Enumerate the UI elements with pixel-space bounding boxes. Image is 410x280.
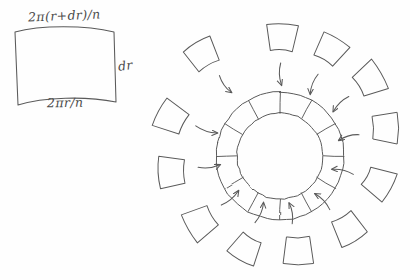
annulus-radial-divider xyxy=(302,100,312,118)
sketch-surface xyxy=(0,0,410,280)
exploded-segment xyxy=(283,236,313,264)
segment-outline xyxy=(182,35,222,74)
annulus-radial-divider xyxy=(217,156,237,157)
segment-outline xyxy=(283,236,313,264)
exploded-segment xyxy=(151,97,191,138)
exploded-segment xyxy=(182,35,222,74)
segment-direction-arrow xyxy=(289,203,293,224)
segment-direction-arrow xyxy=(219,76,231,93)
annulus-inner-circle xyxy=(237,112,323,199)
label-radial-thickness: dr xyxy=(117,57,133,73)
segment-outline xyxy=(157,155,185,188)
segment-outline xyxy=(266,23,299,52)
annulus-radial-divider xyxy=(317,177,336,188)
segment-direction-arrow xyxy=(279,63,281,85)
exploded-segment xyxy=(359,161,399,202)
segment-outline xyxy=(226,230,266,268)
exploded-segment xyxy=(372,113,399,144)
annulus-radial-divider xyxy=(225,177,243,188)
annulus-radial-divider xyxy=(323,156,343,157)
exploded-segment xyxy=(157,155,185,188)
segment-outline xyxy=(372,113,399,144)
segment-direction-arrow xyxy=(310,74,318,94)
segment-outline xyxy=(180,201,221,243)
segment-direction-arrow xyxy=(333,96,349,111)
exploded-segment xyxy=(180,201,221,243)
segment-direction-arrow xyxy=(315,194,330,210)
segment-direction-arrow xyxy=(332,169,353,174)
segment-outline xyxy=(311,31,351,69)
segment-outline xyxy=(328,209,368,249)
exploded-segment xyxy=(328,209,368,249)
segment-outline xyxy=(359,161,399,202)
segment-outline xyxy=(349,58,389,101)
segment-direction-arrow xyxy=(255,203,264,223)
exploded-segment-group xyxy=(151,23,398,267)
annulus-radial-divider xyxy=(248,193,258,212)
exploded-segment xyxy=(311,31,351,69)
exploded-segment xyxy=(226,230,266,268)
annulus-radial-divider xyxy=(249,100,259,119)
annulus-radial-divider xyxy=(317,124,335,135)
annulus-ring xyxy=(216,92,344,220)
exploded-segment xyxy=(349,58,389,101)
diagram-canvas: 2π(r+dr)/n 2πr/n dr xyxy=(0,0,410,280)
exploded-segment xyxy=(266,23,299,52)
annulus-radial-divider xyxy=(301,193,311,212)
segment-outline xyxy=(151,97,191,138)
annulus-radial-divider xyxy=(225,124,243,135)
label-inner-arc-length: 2πr/n xyxy=(47,95,84,111)
arrow-group xyxy=(196,63,359,224)
segment-direction-arrow xyxy=(196,126,217,133)
annulus-radial-divider xyxy=(280,199,281,219)
segment-detail-shape xyxy=(15,27,116,105)
label-outer-arc-length: 2π(r+dr)/n xyxy=(28,6,101,24)
